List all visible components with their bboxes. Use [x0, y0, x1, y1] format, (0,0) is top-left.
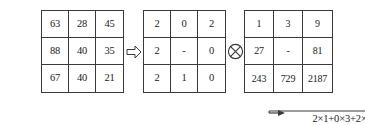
matrix-cell: 28 — [69, 11, 96, 38]
ternary-pattern-diagram: 63 28 45 88 40 35 67 40 21 2 0 2 2 - 0 2… — [0, 0, 365, 125]
matrix-cell: 35 — [96, 38, 123, 65]
matrix-cell: 2 — [144, 38, 171, 65]
matrix-cell: 2187 — [303, 65, 332, 92]
matrix-cell: 9 — [303, 11, 332, 38]
matrix-cell: - — [171, 38, 198, 65]
matrix-cell: 1 — [171, 65, 198, 92]
matrix-cell: 0 — [198, 65, 225, 92]
matrix-cell: 2 — [198, 11, 225, 38]
matrix-cell: 40 — [69, 65, 96, 92]
circled-times-icon — [227, 43, 244, 60]
matrix-cell: 81 — [303, 38, 332, 65]
block-right-arrow-icon — [126, 44, 142, 60]
weighted-sum-formula: 2×1+0×3+2×9+2×27+0×81+2×243+1×729+0×2187… — [290, 113, 365, 124]
power-of-three-weight-matrix: 1 3 9 27 - 81 243 729 2187 2×1+0×3+2×9+2… — [244, 10, 333, 93]
matrix-cell: 2 — [144, 65, 171, 92]
matrix-cell: 45 — [96, 11, 123, 38]
matrix-cell: 21 — [96, 65, 123, 92]
matrix-cell: 1 — [245, 11, 274, 38]
matrix-cell: 88 — [42, 38, 69, 65]
matrix-cell: 27 — [245, 38, 274, 65]
matrix-cell: - — [274, 38, 303, 65]
matrix-cell: 63 — [42, 11, 69, 38]
matrix-cell: 0 — [171, 11, 198, 38]
matrix-cell: 243 — [245, 65, 274, 92]
matrix-cell: 2 — [144, 11, 171, 38]
matrix-cell: 67 — [42, 65, 69, 92]
matrix-cell: 3 — [274, 11, 303, 38]
matrix-cell: 0 — [198, 38, 225, 65]
ternary-pattern-matrix: 2 0 2 2 - 0 2 1 0 — [143, 10, 226, 93]
source-intensity-matrix: 63 28 45 88 40 35 67 40 21 — [41, 10, 124, 93]
matrix-cell: 40 — [69, 38, 96, 65]
matrix-cell: 729 — [274, 65, 303, 92]
